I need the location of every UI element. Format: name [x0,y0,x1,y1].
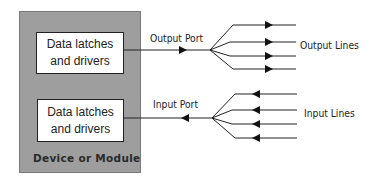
input-lines-label: Input Lines [304,108,355,119]
output-lines-label: Output Lines [300,40,359,51]
input-port-label: Input Port [153,99,198,110]
output-port-label: Output Port [150,33,203,44]
connection-lines [0,0,375,180]
